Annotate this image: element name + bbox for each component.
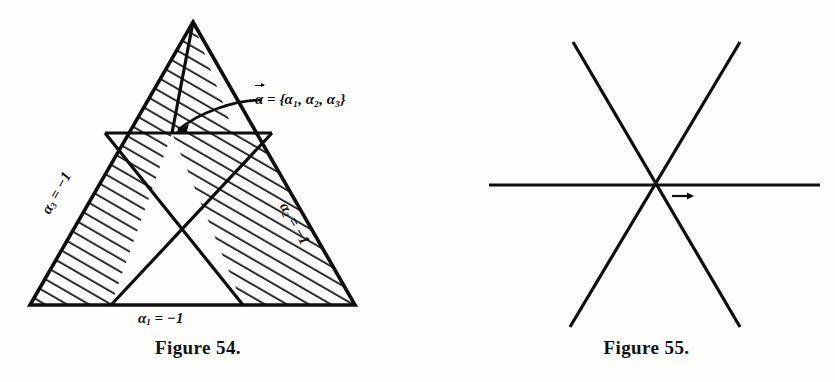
alpha-symbol: α [255, 91, 263, 107]
alpha-vector-arrow-head [687, 193, 694, 200]
figure-55: α A B C D E F Figure 55. [418, 0, 835, 382]
figure-55-drawing [418, 0, 835, 382]
brace-close: } [340, 91, 345, 107]
figure-54: α = {α₁, α₂, α₃} α1 = −1 α3 = −1 α2 = −1… [0, 0, 418, 382]
hatch-left-band [30, 133, 172, 305]
vector-arrow-overbar [255, 85, 264, 86]
alpha-components: α₁, α₂, α₃ [285, 91, 341, 107]
figure-54-caption: Figure 54. [0, 337, 418, 359]
figure-55-caption: Figure 55. [418, 337, 835, 359]
figure-page: α = {α₁, α₂, α₃} α1 = −1 α3 = −1 α2 = −1… [0, 0, 835, 382]
alpha-vector-glyph: α [255, 92, 263, 107]
hatched-regions [30, 22, 355, 305]
alpha1-value: = −1 [155, 310, 184, 326]
label-alpha1-bottom-edge: α1 = −1 [138, 311, 183, 327]
equals-sign: = [267, 91, 276, 107]
label-alpha-vector: α = {α₁, α₂, α₃} [255, 92, 345, 107]
alpha1-subscript: 1 [146, 317, 151, 327]
hatch-right-band [172, 133, 355, 305]
